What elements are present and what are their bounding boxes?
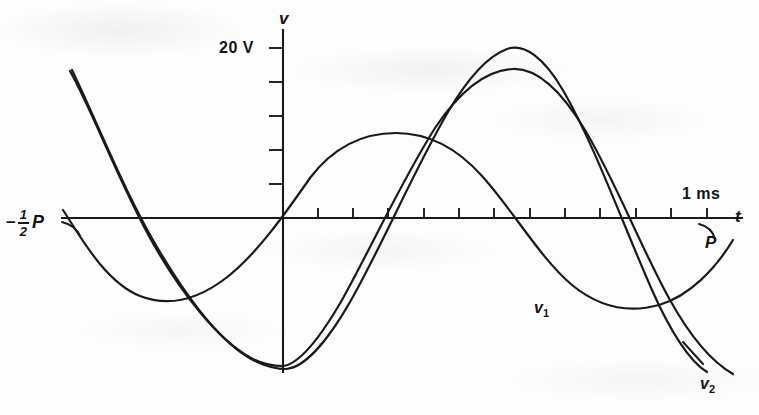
period-end-label: P — [705, 234, 716, 251]
y-axis-label: v — [279, 10, 288, 27]
fraction-numerator: 1 — [20, 208, 27, 222]
y-axis-scale-label: 20 V — [219, 40, 254, 56]
period-start-label: − 1 2 P — [6, 208, 44, 238]
period-start-symbol: P — [32, 212, 44, 233]
waveform-plot — [0, 0, 759, 415]
curve-label-v2-subscript: 2 — [709, 383, 715, 395]
curve-label-v2-base: v — [700, 375, 709, 392]
curve-v3 — [70, 69, 733, 374]
time-marker-label: 1 ms — [682, 186, 720, 202]
figure-page: v 20 V t 1 ms P − 1 2 P v1 v2 — [0, 0, 759, 415]
period-start-fraction: 1 2 — [18, 208, 29, 238]
period-start-minus-sign: − — [6, 213, 16, 233]
curve-v1 — [63, 133, 733, 309]
fraction-denominator: 2 — [20, 224, 27, 238]
curve-label-v1: v1 — [534, 300, 549, 319]
curve-label-v2: v2 — [700, 376, 715, 395]
x-axis-label: t — [735, 208, 741, 225]
curve-label-v1-base: v — [534, 299, 543, 316]
curve-label-v1-subscript: 1 — [543, 307, 549, 319]
